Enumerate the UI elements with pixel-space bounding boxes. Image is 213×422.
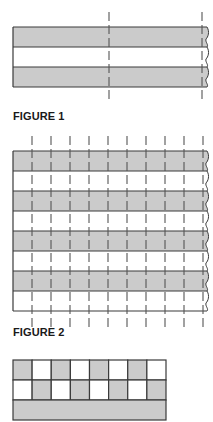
white-cell bbox=[128, 380, 147, 400]
white-band bbox=[13, 251, 209, 271]
gray-cell bbox=[128, 360, 147, 380]
figure-1-label: FIGURE 1 bbox=[13, 110, 65, 122]
gray-band bbox=[13, 151, 209, 171]
gray-band bbox=[13, 27, 209, 47]
white-cell bbox=[147, 360, 166, 380]
gray-cell bbox=[90, 360, 109, 380]
white-band bbox=[13, 47, 209, 67]
diagram-canvas bbox=[0, 0, 213, 422]
white-cell bbox=[32, 360, 51, 380]
gray-cell bbox=[32, 380, 51, 400]
full-gray-row bbox=[13, 400, 166, 420]
white-cell bbox=[70, 360, 89, 380]
figure-2-label: FIGURE 2 bbox=[13, 326, 65, 338]
gray-cell bbox=[70, 380, 89, 400]
white-cell bbox=[90, 380, 109, 400]
gray-band bbox=[13, 271, 209, 291]
figure-3-drawing bbox=[13, 360, 166, 420]
figure-1-drawing bbox=[13, 12, 209, 103]
gray-band bbox=[13, 191, 209, 211]
gray-cell bbox=[13, 360, 32, 380]
white-band bbox=[13, 211, 209, 231]
figure-2-drawing bbox=[13, 136, 209, 327]
gray-band bbox=[13, 67, 209, 87]
gray-cell bbox=[51, 360, 70, 380]
white-cell bbox=[13, 380, 32, 400]
gray-band bbox=[13, 231, 209, 251]
gray-cell bbox=[109, 380, 128, 400]
white-cell bbox=[109, 360, 128, 380]
gray-cell bbox=[147, 380, 166, 400]
white-cell bbox=[51, 380, 70, 400]
white-band bbox=[13, 171, 209, 191]
white-band bbox=[13, 291, 209, 311]
